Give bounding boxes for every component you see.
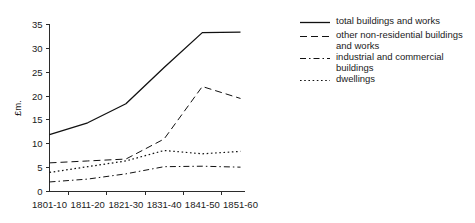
- x-tick-label: 1831-40: [147, 199, 182, 210]
- y-tick-label: 35: [32, 19, 43, 30]
- legend-line-sample-dashed: [300, 30, 330, 43]
- legend-line-sample-solid: [300, 16, 330, 29]
- series-line-dashdot: [50, 166, 241, 182]
- legend-line-sample-dotted: [300, 74, 330, 87]
- y-axis-title: £m.: [12, 100, 23, 116]
- legend-item-label: other non-residential buildings and work…: [336, 30, 463, 51]
- legend-item-label: total buildings and works: [336, 16, 440, 27]
- y-axis-tick-labels: 05101520253035: [32, 19, 43, 197]
- legend-item[interactable]: total buildings and works: [300, 16, 475, 29]
- legend-item[interactable]: other non-residential buildings and work…: [300, 30, 475, 51]
- x-tick-label: 1811-20: [71, 199, 105, 210]
- y-tick-label: 25: [32, 67, 43, 78]
- x-tick-label: 1841-50: [185, 199, 220, 210]
- legend-item-label: industrial and commercial buildings: [336, 52, 444, 73]
- axis-tick-marks: [46, 25, 221, 196]
- y-tick-label: 15: [32, 114, 43, 125]
- x-tick-label: 1851-60: [223, 199, 258, 210]
- y-tick-label: 0: [37, 186, 42, 197]
- x-tick-label: 1801-10: [32, 199, 67, 210]
- series-line-dashed: [50, 87, 241, 163]
- y-tick-label: 30: [32, 43, 43, 54]
- legend-item[interactable]: dwellings: [300, 74, 475, 87]
- x-tick-label: 1821-30: [108, 199, 143, 210]
- data-series-group: [50, 32, 241, 182]
- x-axis-tick-labels: 1801-101811-201821-301831-401841-501851-…: [32, 199, 258, 210]
- legend-item[interactable]: industrial and commercial buildings: [300, 52, 475, 73]
- y-tick-label: 5: [37, 162, 42, 173]
- series-line-solid: [50, 32, 241, 135]
- y-tick-label: 10: [32, 138, 43, 149]
- legend-item-label: dwellings: [336, 74, 375, 85]
- chart-figure: 05101520253035 1801-101811-201821-301831…: [0, 0, 475, 223]
- legend-line-sample-dashdot: [300, 52, 330, 65]
- chart-legend: total buildings and worksother non-resid…: [300, 16, 475, 88]
- y-tick-label: 20: [32, 91, 43, 102]
